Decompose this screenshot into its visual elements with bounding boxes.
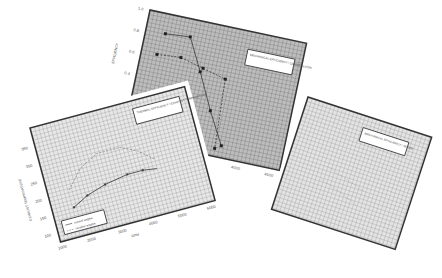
y-tick: 0.8 — [133, 27, 140, 33]
y-tick: 350 — [21, 145, 29, 152]
y-axis-label: EFFICIENCY — [111, 42, 119, 64]
x-tick: 6000 — [206, 204, 217, 211]
y-tick: 100 — [44, 232, 52, 239]
y-tick: 300 — [25, 163, 33, 170]
x-tick: 4000 — [148, 219, 159, 226]
y-tick: 0.4 — [124, 70, 131, 76]
x-tick: 1000 — [57, 243, 68, 250]
x-tick: 4500 — [264, 171, 275, 178]
x-tick: 4000 — [231, 164, 242, 171]
chart-svg: MECHANICAL EFFICIENCY / SPEED — [272, 97, 432, 249]
y-tick: 1.0 — [138, 6, 145, 12]
exhaust-temperature-chart: THERMAL EFFICIENCY / EXHAUST TEMPERATURE… — [30, 87, 215, 242]
y-tick: 0.6 — [128, 49, 135, 55]
x-tick: 2000 — [86, 236, 97, 243]
x-tick: 3000 — [117, 227, 128, 234]
y-tick: 250 — [30, 180, 38, 187]
x-axis-label: RPM — [131, 232, 140, 238]
chart-svg: THERMAL EFFICIENCY / EXHAUST TEMPERATURE… — [30, 87, 215, 242]
y-tick: 200 — [35, 197, 43, 204]
x-tick: 5000 — [177, 211, 188, 218]
y-tick: 150 — [39, 215, 47, 222]
speed-efficiency-chart: MECHANICAL EFFICIENCY / SPEED — [272, 97, 432, 249]
